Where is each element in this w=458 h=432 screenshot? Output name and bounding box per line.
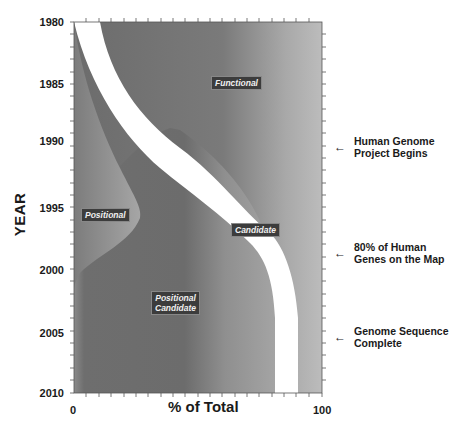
y-tick-1995: 1995	[24, 202, 64, 214]
candidate-label: Candidate	[231, 223, 280, 237]
arrow-left-icon: ←	[334, 141, 346, 153]
positional-label: Positional	[81, 208, 130, 222]
functional-label: Functional	[211, 76, 262, 90]
arrow-left-icon: ←	[334, 331, 346, 343]
y-tick-2000: 2000	[24, 264, 64, 276]
y-tick-1990: 1990	[24, 135, 64, 147]
y-tick-1985: 1985	[24, 78, 64, 90]
x-tick-0: 0	[70, 404, 76, 416]
y-tick-1980: 1980	[24, 16, 64, 28]
positional-candidate-label: Positional Candidate	[151, 291, 200, 315]
y-tick-2010: 2010	[24, 387, 64, 399]
y-axis-ticks	[70, 22, 74, 393]
arrow-left-icon: ←	[334, 247, 346, 259]
x-tick-100: 100	[313, 404, 331, 416]
right-axis-ticks	[322, 34, 326, 380]
x-axis-label: % of Total	[168, 398, 239, 415]
y-tick-2005: 2005	[24, 327, 64, 339]
y-axis-label: YEAR	[11, 193, 28, 237]
